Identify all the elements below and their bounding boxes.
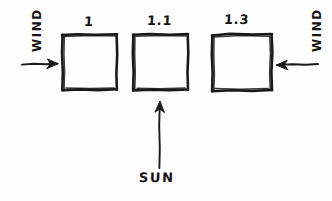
sun-label: SUN bbox=[139, 170, 175, 185]
box-1-label: 1 bbox=[84, 14, 95, 29]
sun-arrow bbox=[155, 102, 164, 169]
box-1-outline bbox=[62, 34, 117, 90]
diagram-canvas: 1 1.1 1.3 WIND WIND SUN bbox=[0, 0, 332, 201]
wind-label-left: WIND bbox=[30, 8, 44, 52]
wind-arrow-left bbox=[22, 59, 58, 68]
wind-arrow-right bbox=[277, 60, 318, 69]
box-2-outline bbox=[133, 34, 189, 91]
box-3-outline bbox=[212, 34, 273, 92]
wind-label-right: WIND bbox=[310, 8, 324, 52]
box-3-label: 1.3 bbox=[224, 12, 250, 27]
box-2-label: 1.1 bbox=[147, 13, 173, 28]
